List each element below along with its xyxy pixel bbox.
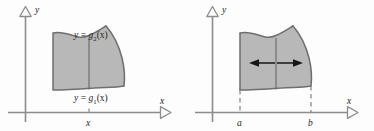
left-x-tick-label: x [85,118,91,128]
left-x-axis-label: x [159,96,165,106]
left-lower-label-arg: (x) [97,93,108,104]
right-y-axis-label: y [221,5,227,15]
right-x-axis-label: x [346,96,352,106]
left-y-axis-label: y [34,5,40,15]
left-x-axis-arrowhead [161,107,172,119]
right-x-axis-arrowhead [348,107,359,119]
left-lower-curve-label: y=g1(x) [73,93,108,105]
left-y-axis-arrowhead [20,7,31,17]
right-y-axis-arrowhead [207,7,218,17]
left-lower-label-lhs: y [73,93,79,103]
left-panel: y x x y=g2(x) [0,0,187,131]
left-upper-curve-label: y=g2(x) [73,30,108,42]
left-bound-label: a [237,118,242,128]
right-panel: y x [187,0,374,131]
left-lower-label-equals: = [81,93,86,103]
left-upper-label-arg: (x) [97,30,108,41]
figure-root: y x x y=g2(x) [0,0,374,131]
left-upper-label-equals: = [81,30,86,40]
left-upper-label-lhs: y [73,30,79,40]
right-bound-label: b [308,118,313,128]
